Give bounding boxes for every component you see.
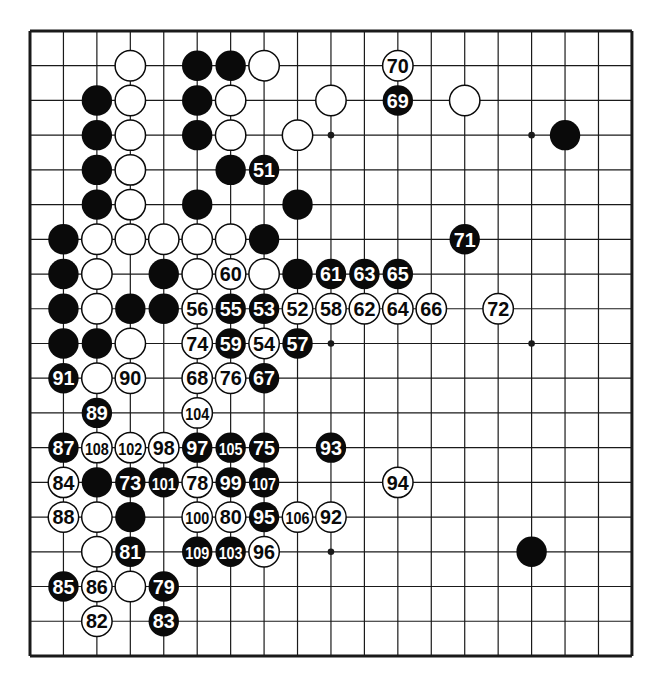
white-stone	[316, 85, 346, 115]
move-number: 97	[186, 436, 208, 459]
white-stone	[115, 51, 145, 81]
white-stone	[115, 189, 145, 219]
move-76-white-stone: 76	[215, 363, 245, 393]
move-68-white-stone: 68	[182, 363, 212, 393]
move-number: 65	[387, 262, 409, 285]
move-81-black-stone: 81	[115, 537, 145, 567]
move-87-black-stone: 87	[48, 432, 78, 462]
black-stone	[282, 189, 312, 219]
move-number: 73	[119, 471, 141, 494]
move-number: 108	[85, 440, 109, 459]
move-number: 68	[186, 366, 208, 389]
move-number: 75	[253, 436, 275, 459]
move-number: 66	[420, 297, 442, 320]
star-point	[328, 549, 335, 556]
move-number: 88	[52, 505, 74, 528]
move-number: 61	[320, 262, 342, 285]
move-number: 86	[86, 575, 108, 598]
move-number: 81	[119, 540, 141, 563]
move-number: 64	[387, 297, 409, 320]
move-86-white-stone: 86	[82, 571, 112, 601]
move-number: 60	[220, 262, 242, 285]
move-61-black-stone: 61	[316, 259, 346, 289]
move-number: 67	[253, 366, 275, 389]
move-66-white-stone: 66	[416, 294, 446, 324]
black-stone	[82, 120, 112, 150]
white-stone	[215, 224, 245, 254]
move-108-white-stone: 108	[82, 432, 112, 462]
move-78-white-stone: 78	[182, 467, 212, 497]
move-number: 71	[454, 228, 476, 251]
go-board: 5152535455565758596061626364656667686970…	[0, 0, 656, 681]
move-69-black-stone: 69	[383, 85, 413, 115]
white-stone	[249, 51, 279, 81]
black-stone	[115, 502, 145, 532]
move-number: 69	[387, 89, 409, 112]
move-number: 103	[219, 544, 243, 563]
black-stone	[282, 259, 312, 289]
move-92-white-stone: 92	[316, 502, 346, 532]
move-number: 92	[320, 505, 342, 528]
move-71-black-stone: 71	[450, 224, 480, 254]
move-85-black-stone: 85	[48, 571, 78, 601]
white-stone	[249, 259, 279, 289]
move-64-white-stone: 64	[383, 294, 413, 324]
move-number: 106	[286, 509, 310, 528]
move-number: 104	[185, 405, 209, 424]
move-number: 55	[220, 297, 242, 320]
move-95-black-stone: 95	[249, 502, 279, 532]
white-stone	[282, 120, 312, 150]
move-number: 79	[153, 575, 175, 598]
move-51-black-stone: 51	[249, 155, 279, 185]
move-number: 87	[52, 436, 74, 459]
move-number: 74	[186, 332, 208, 355]
move-75-black-stone: 75	[249, 432, 279, 462]
move-number: 94	[387, 471, 409, 494]
white-stone	[82, 294, 112, 324]
move-80-white-stone: 80	[215, 502, 245, 532]
move-number: 51	[253, 158, 275, 181]
move-88-white-stone: 88	[48, 502, 78, 532]
move-82-white-stone: 82	[82, 606, 112, 636]
white-stone	[149, 224, 179, 254]
move-number: 82	[86, 609, 108, 632]
black-stone	[48, 259, 78, 289]
black-stone	[82, 85, 112, 115]
move-number: 101	[152, 475, 176, 494]
move-number: 109	[185, 544, 209, 563]
move-number: 54	[253, 332, 275, 355]
move-107-black-stone: 107	[249, 467, 279, 497]
move-number: 72	[487, 297, 509, 320]
move-number: 80	[220, 505, 242, 528]
black-stone	[48, 224, 78, 254]
white-stone	[115, 328, 145, 358]
move-99-black-stone: 99	[215, 467, 245, 497]
move-number: 95	[253, 505, 275, 528]
black-stone	[215, 155, 245, 185]
move-number: 98	[153, 436, 175, 459]
white-stone	[82, 537, 112, 567]
move-74-white-stone: 74	[182, 328, 212, 358]
move-72-white-stone: 72	[483, 294, 513, 324]
black-stone	[249, 224, 279, 254]
unnumbered-stones	[48, 51, 580, 602]
white-stone	[115, 571, 145, 601]
move-109-black-stone: 109	[182, 537, 212, 567]
black-stone	[516, 537, 546, 567]
move-number: 83	[153, 609, 175, 632]
move-84-white-stone: 84	[48, 467, 78, 497]
move-103-black-stone: 103	[215, 537, 245, 567]
black-stone	[182, 85, 212, 115]
move-number: 91	[52, 366, 74, 389]
move-number: 105	[219, 440, 243, 459]
move-90-white-stone: 90	[115, 363, 145, 393]
white-stone	[115, 224, 145, 254]
black-stone	[82, 189, 112, 219]
white-stone	[215, 120, 245, 150]
move-number: 107	[252, 475, 276, 494]
white-stone	[182, 224, 212, 254]
move-number: 78	[186, 471, 208, 494]
black-stone	[149, 259, 179, 289]
black-stone	[82, 467, 112, 497]
white-stone	[215, 85, 245, 115]
